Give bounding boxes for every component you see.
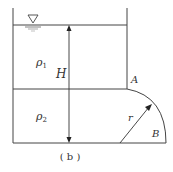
point-b-label: B: [151, 128, 159, 139]
height-label: H: [55, 67, 67, 81]
rho1-label: ρ1: [35, 56, 47, 70]
free-surface-triangle-icon: [25, 15, 41, 31]
height-dimension-arrow: [67, 25, 72, 143]
radius-label: r: [128, 112, 134, 123]
point-a-label: A: [130, 74, 138, 85]
figure-caption: ( b ): [60, 151, 81, 162]
curved-gate-ab: [127, 89, 166, 143]
radius-arrow: [120, 104, 152, 143]
rho2-label: ρ2: [35, 110, 47, 124]
tank-diagram: ρ1 ρ2 H A B r ( b ): [0, 0, 173, 172]
